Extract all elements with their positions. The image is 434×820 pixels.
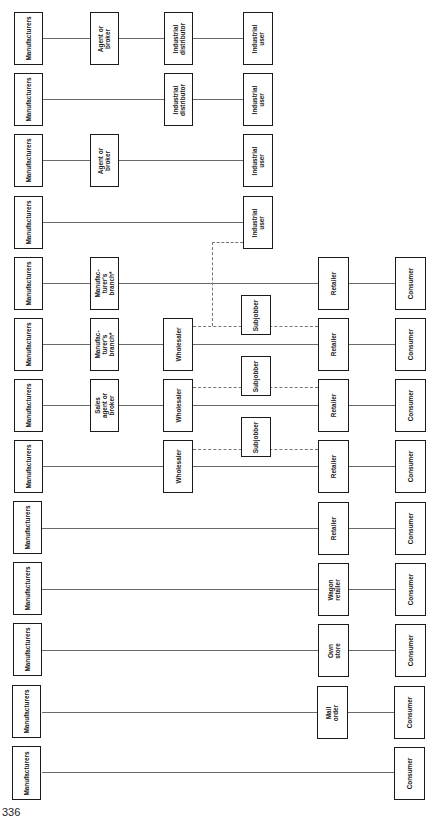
sales-agent-or-broker-box-7: Sales agent or broker — [90, 379, 119, 432]
retailer-box-5: Retailer — [318, 257, 349, 310]
industrial-user-box-2: Industrial user — [243, 73, 273, 126]
manufacturers-box-4: Manufacturers — [14, 196, 43, 249]
manufacturers-branch-box-6: Manufac- turer's branch* — [90, 318, 119, 371]
box-label: Consumer — [407, 513, 414, 545]
box-label: Consumer — [407, 268, 414, 300]
consumer-box-10: Consumer — [395, 563, 426, 616]
box-label: Industrial user — [251, 146, 265, 175]
wagon-retailer-box-10: Wagon retailer — [318, 563, 349, 616]
wholesaler-box-8: Wholesaler — [163, 440, 193, 493]
consumer-box-6: Consumer — [395, 318, 426, 371]
channel-line-2 — [42, 99, 244, 100]
retailer-box-6: Retailer — [318, 318, 349, 371]
consumer-box-13: Consumer — [394, 747, 425, 800]
channel-line-1 — [42, 38, 244, 39]
box-label: Consumer — [407, 329, 414, 361]
manufacturers-box-7: Manufacturers — [14, 379, 43, 432]
manufacturers-box-8: Manufacturers — [14, 440, 43, 493]
box-label: Sales agent or broker — [94, 393, 115, 418]
box-label: Industrial user — [251, 85, 265, 114]
manufacturers-box-5: Manufacturers — [14, 257, 43, 310]
manufacturers-box-6: Manufacturers — [14, 318, 43, 371]
consumer-box-9: Consumer — [395, 502, 426, 555]
manufacturers-box-9: Manufacturers — [13, 501, 42, 554]
box-label: Retailer — [330, 394, 337, 417]
box-label: Consumer — [407, 574, 414, 606]
box-label: Industrial distributor — [172, 23, 186, 55]
channel-diagram: Manufacturers Agent or broker Industrial… — [0, 0, 434, 820]
box-label: Wholesaler — [175, 388, 182, 422]
manufacturers-box-3: Manufacturers — [14, 134, 43, 187]
agent-or-broker-box-3: Agent or broker — [90, 134, 119, 187]
wholesaler-box-6: Wholesaler — [163, 318, 193, 371]
page-number: 336 — [2, 806, 20, 818]
industrial-distributor-box-1: Industrial distributor — [164, 12, 193, 65]
box-label: Retailer — [330, 455, 337, 478]
box-label: Manufacturers — [25, 444, 32, 488]
box-label: Wagon retailer — [326, 579, 340, 600]
box-label: Consumer — [406, 758, 413, 790]
box-label: Industrial user — [251, 24, 265, 53]
box-label: Consumer — [407, 635, 414, 667]
box-label: Manufacturers — [25, 138, 32, 182]
channel-line-4 — [42, 222, 244, 223]
box-label: Manufacturers — [25, 261, 32, 305]
box-label: Retailer — [330, 272, 337, 295]
subjobber-box-3: Subjobber — [241, 417, 271, 457]
mail-order-box-12: Mail order — [317, 686, 348, 739]
manufacturers-box-2: Manufacturers — [14, 73, 43, 126]
consumer-box-7: Consumer — [395, 379, 426, 432]
consumer-box-5: Consumer — [395, 257, 426, 310]
industrial-distributor-box-2: Industrial distributor — [164, 73, 193, 126]
consumer-box-11: Consumer — [395, 624, 426, 677]
box-label: Consumer — [407, 390, 414, 422]
box-label: Wholesaler — [175, 449, 182, 483]
retailer-box-7: Retailer — [318, 379, 349, 432]
manufacturers-box-12: Manufacturers — [12, 685, 41, 738]
manufacturers-box-11: Manufacturers — [13, 623, 42, 676]
box-label: Wholesaler — [175, 327, 182, 361]
box-label: Manufacturers — [25, 383, 32, 427]
box-label: Manufac- turer's branch* — [94, 269, 115, 297]
manufacturers-branch-box-5: Manufac- turer's branch* — [90, 257, 119, 310]
box-label: Manufacturers — [24, 566, 31, 610]
box-label: Subjobber — [253, 360, 260, 392]
box-label: Consumer — [406, 697, 413, 729]
manufacturers-box-1: Manufacturers — [14, 12, 43, 65]
box-label: Mail order — [326, 704, 340, 720]
box-label: Agent or broker — [98, 147, 112, 173]
retailer-box-8: Retailer — [318, 440, 349, 493]
agent-or-broker-box-1: Agent or broker — [90, 12, 119, 65]
box-label: Consumer — [407, 451, 414, 483]
box-label: Industrial user — [251, 208, 265, 237]
box-label: Retailer — [330, 333, 337, 356]
manufacturers-box-13: Manufacturers — [12, 746, 41, 800]
channel-line-3 — [42, 160, 244, 161]
wholesaler-box-7: Wholesaler — [163, 379, 193, 432]
industrial-user-box-3: Industrial user — [243, 134, 273, 187]
retailer-box-9: Retailer — [318, 502, 349, 555]
box-label: Manufacturers — [25, 322, 32, 366]
box-label: Subjobber — [253, 421, 260, 453]
subjobber-box-1: Subjobber — [241, 295, 271, 335]
box-label: Subjobber — [253, 299, 260, 331]
box-label: Retailer — [330, 517, 337, 540]
industrial-user-box-4: Industrial user — [243, 196, 273, 249]
dashed-line-branch-industrial-user — [212, 242, 243, 243]
consumer-box-12: Consumer — [394, 686, 425, 739]
own-store-box-11: Own store — [318, 624, 349, 677]
box-label: Manufacturers — [23, 751, 30, 795]
box-label: Manufacturers — [23, 689, 30, 733]
box-label: Agent or broker — [98, 25, 112, 51]
industrial-user-box-1: Industrial user — [243, 12, 273, 65]
box-label: Manufacturers — [24, 627, 31, 671]
box-label: Manufacturers — [24, 505, 31, 549]
box-label: Manufac- turer's branch* — [94, 330, 115, 358]
box-label: Manufacturers — [25, 16, 32, 60]
box-label: Own store — [326, 643, 340, 659]
box-label: Manufacturers — [25, 200, 32, 244]
box-label: Industrial distributor — [172, 84, 186, 116]
subjobber-box-2: Subjobber — [241, 356, 271, 396]
dashed-line-to-industrial-user — [212, 242, 213, 326]
box-label: Manufacturers — [25, 77, 32, 121]
